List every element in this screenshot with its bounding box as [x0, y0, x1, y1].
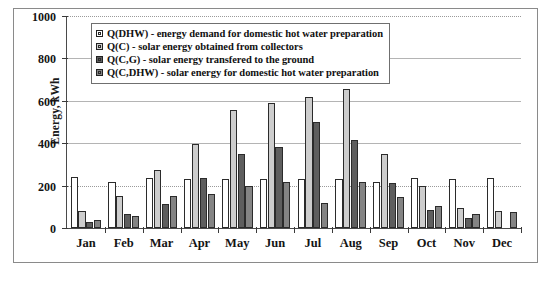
bar-qcdhw-jan — [94, 220, 101, 228]
bar-qcdhw-aug — [359, 182, 366, 228]
bar-qcg-jan — [86, 222, 93, 228]
x-axis-label-nov: Nov — [453, 236, 475, 251]
bar-qc-may — [230, 110, 237, 228]
bar-qdhw-apr — [184, 179, 191, 228]
bar-qc-jan — [78, 211, 85, 228]
bar-qcg-oct — [427, 210, 434, 228]
bar-qdhw-aug — [335, 179, 342, 228]
bar-qcg-jul — [313, 122, 320, 228]
bar-qc-sep — [381, 154, 388, 228]
bar-qdhw-jun — [260, 179, 267, 228]
bar-qdhw-jul — [298, 179, 305, 228]
x-axis-label-jul: Jul — [305, 236, 322, 251]
legend-item-label: Q(C,G) - solar energy transfered to the … — [107, 54, 314, 65]
bar-qcg-sep — [389, 183, 396, 228]
x-axis-label-mar: Mar — [150, 236, 174, 251]
y-axis-tick-label: 1000 — [32, 10, 56, 25]
bar-qcg-may — [238, 154, 245, 228]
bar-qcdhw-jul — [321, 203, 328, 228]
bar-qcg-apr — [200, 178, 207, 228]
y-axis-title: Energy, kWh — [49, 51, 61, 171]
bar-qc-jun — [268, 103, 275, 228]
bar-qcdhw-jun — [283, 182, 290, 228]
bar-qc-dec — [495, 211, 502, 228]
bar-qc-apr — [192, 144, 199, 228]
y-axis-tick-label: 0 — [50, 222, 56, 237]
bar-qcdhw-mar — [170, 196, 177, 228]
bar-qc-feb — [116, 196, 123, 228]
chart-legend: Q(DHW) - energy demand for domestic hot … — [91, 23, 390, 84]
bar-qdhw-oct — [411, 178, 418, 228]
bar-group — [408, 16, 446, 228]
bar-qdhw-may — [222, 179, 229, 228]
bar-qcdhw-sep — [397, 197, 404, 228]
x-axis-label-aug: Aug — [340, 236, 362, 251]
bar-group — [445, 16, 483, 228]
bar-qc-nov — [457, 208, 464, 228]
y-axis-tick-label: 600 — [38, 94, 56, 109]
bar-qcdhw-dec — [510, 212, 517, 228]
legend-swatch-icon — [96, 69, 103, 76]
bar-qcdhw-nov — [472, 214, 479, 228]
x-axis-label-jun: Jun — [265, 236, 285, 251]
bar-qdhw-nov — [449, 179, 456, 228]
x-axis-label-sep: Sep — [379, 236, 398, 251]
legend-item-q-dhw: Q(DHW) - energy demand for domestic hot … — [96, 27, 383, 40]
bar-qcdhw-oct — [435, 206, 442, 228]
bar-group — [483, 16, 521, 228]
bar-qcg-nov — [465, 218, 472, 228]
bar-qdhw-feb — [108, 182, 115, 228]
bar-qcdhw-may — [245, 186, 252, 228]
bar-qdhw-mar — [146, 178, 153, 228]
bar-qcdhw-apr — [208, 194, 215, 228]
legend-item-label: Q(C) - solar energy obtained from collec… — [107, 41, 303, 52]
x-axis-tick — [521, 227, 522, 233]
bar-qc-aug — [343, 89, 350, 228]
x-axis-label-apr: Apr — [189, 236, 211, 251]
x-axis-label-dec: Dec — [492, 236, 512, 251]
x-axis-label-jan: Jan — [76, 236, 95, 251]
bar-qcg-aug — [351, 140, 358, 228]
y-axis-tick: 0 — [62, 228, 68, 229]
legend-swatch-icon — [96, 30, 103, 37]
legend-item-label: Q(C,DHW) - solar energy for domestic hot… — [107, 67, 379, 78]
bar-qcg-mar — [162, 204, 169, 228]
bar-qcg-jun — [275, 147, 282, 228]
legend-item-q-c-g: Q(C,G) - solar energy transfered to the … — [96, 53, 383, 66]
y-axis-tick-label: 200 — [38, 179, 56, 194]
bar-qcg-feb — [124, 214, 131, 228]
y-axis-tick-label: 400 — [38, 137, 56, 152]
chart-figure: Energy, kWh 02004006008001000JanFebMarAp… — [13, 8, 538, 263]
x-axis-label-may: May — [225, 236, 249, 251]
legend-item-q-c: Q(C) - solar energy obtained from collec… — [96, 40, 383, 53]
bar-qc-oct — [419, 186, 426, 228]
legend-swatch-icon — [96, 43, 103, 50]
bar-qdhw-jan — [71, 177, 78, 228]
bar-qc-jul — [305, 97, 312, 228]
legend-swatch-icon — [96, 56, 103, 63]
legend-item-label: Q(DHW) - energy demand for domestic hot … — [107, 28, 383, 39]
bar-qc-mar — [154, 170, 161, 228]
x-axis-label-feb: Feb — [114, 236, 134, 251]
y-axis-tick-label: 800 — [38, 52, 56, 67]
bar-qcdhw-feb — [132, 216, 139, 228]
x-axis-label-oct: Oct — [417, 236, 436, 251]
bar-qdhw-sep — [373, 182, 380, 228]
legend-item-q-c-dhw: Q(C,DHW) - solar energy for domestic hot… — [96, 66, 383, 79]
bar-qdhw-dec — [487, 178, 494, 228]
